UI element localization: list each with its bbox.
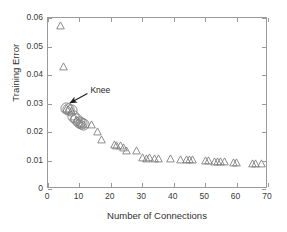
- data-layer: [48, 18, 266, 187]
- y-tick-mark-right: [262, 47, 266, 48]
- x-tick-mark: [142, 183, 143, 187]
- y-tick-mark: [48, 47, 52, 48]
- y-tick-mark: [48, 18, 52, 19]
- y-tick-mark-right: [262, 189, 266, 190]
- x-tick-mark: [48, 183, 49, 187]
- y-tick-mark-right: [262, 75, 266, 76]
- x-tick-mark: [268, 183, 269, 187]
- y-tick-mark-right: [262, 161, 266, 162]
- x-tick-mark-top: [79, 18, 80, 22]
- y-tick-mark: [48, 132, 52, 133]
- x-tick-label: 0: [45, 192, 50, 201]
- plot-area: [47, 17, 267, 188]
- x-tick-mark: [205, 183, 206, 187]
- y-tick-mark: [48, 75, 52, 76]
- x-tick-mark-top: [205, 18, 206, 22]
- knee-annotation-label: Knee: [90, 86, 110, 95]
- x-tick-mark: [174, 183, 175, 187]
- x-tick-mark-top: [142, 18, 143, 22]
- y-tick-label: 0.04: [0, 70, 43, 79]
- x-tick-label: 10: [74, 192, 83, 201]
- x-tick-label: 50: [199, 192, 208, 201]
- y-tick-label: 0.05: [0, 41, 43, 50]
- y-tick-mark-right: [262, 132, 266, 133]
- y-tick-label: 0.01: [0, 155, 43, 164]
- x-tick-label: 60: [231, 192, 240, 201]
- x-tick-mark: [237, 183, 238, 187]
- x-axis-label: Number of Connections: [47, 211, 267, 221]
- x-tick-label: 30: [137, 192, 146, 201]
- y-tick-mark-right: [262, 18, 266, 19]
- y-tick-label: 0.02: [0, 127, 43, 136]
- x-tick-mark: [111, 183, 112, 187]
- x-tick-mark-top: [111, 18, 112, 22]
- x-tick-mark: [79, 183, 80, 187]
- x-tick-label: 70: [262, 192, 271, 201]
- y-tick-label: 0: [0, 184, 43, 193]
- y-tick-mark-right: [262, 104, 266, 105]
- training-error-scatter-figure: 01020304050607000.010.020.030.040.050.06…: [0, 0, 287, 232]
- y-tick-mark: [48, 161, 52, 162]
- x-tick-mark-top: [174, 18, 175, 22]
- y-tick-label: 0.06: [0, 13, 43, 22]
- x-tick-mark-top: [237, 18, 238, 22]
- y-tick-mark: [48, 189, 52, 190]
- x-tick-label: 20: [105, 192, 114, 201]
- y-tick-mark: [48, 104, 52, 105]
- y-tick-label: 0.03: [0, 98, 43, 107]
- y-axis-label: Training Error: [11, 13, 21, 133]
- x-tick-label: 40: [168, 192, 177, 201]
- x-tick-mark-top: [268, 18, 269, 22]
